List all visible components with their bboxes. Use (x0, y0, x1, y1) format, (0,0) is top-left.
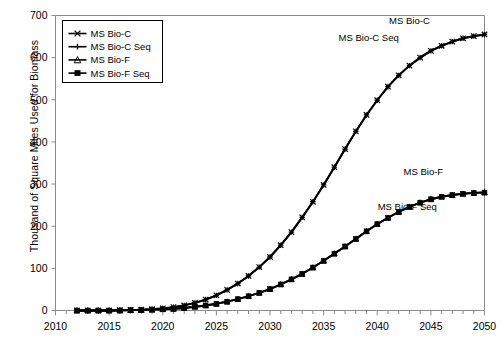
data-point-marker (257, 290, 262, 295)
x-tick-label: 2030 (258, 320, 282, 332)
data-point-marker (160, 307, 165, 312)
data-point-marker (214, 301, 219, 306)
data-point-marker (235, 297, 240, 302)
legend-label: MS Bio-F (91, 54, 131, 65)
data-point-marker (321, 258, 326, 263)
data-point-marker (375, 222, 380, 227)
legend-label: MS Bio-C (91, 28, 132, 39)
legend-label: MS Bio-F Seq (91, 68, 150, 79)
data-point-marker (343, 244, 348, 249)
data-point-marker (353, 236, 358, 241)
data-point-marker (278, 282, 283, 287)
data-point-marker (171, 306, 176, 311)
series-annotations: MS Bio-CMS Bio-C SeqMS Bio-FMS Bio-F Seq (339, 15, 444, 212)
x-tick-label: 2035 (312, 320, 336, 332)
data-point-marker (289, 277, 294, 282)
chart-container: Thousand of Square Miles Used for Biomas… (0, 0, 502, 344)
data-point-marker (96, 308, 101, 313)
data-point-marker (203, 303, 208, 308)
data-point-marker (246, 294, 251, 299)
data-point-marker (225, 299, 230, 304)
data-point-marker (150, 307, 155, 312)
annotation-label: MS Bio-C Seq (339, 32, 399, 43)
x-tick-label: 2020 (151, 320, 175, 332)
data-point-marker (193, 304, 198, 309)
x-tick-label: 2050 (473, 320, 497, 332)
data-point-marker (107, 308, 112, 313)
data-point-marker (311, 265, 316, 270)
x-tick-label: 2015 (97, 320, 121, 332)
data-point-marker (450, 193, 455, 198)
data-point-marker (117, 308, 122, 313)
data-point-marker (482, 190, 487, 195)
data-point-marker (75, 71, 80, 76)
annotation-label: MS Bio-F (404, 166, 444, 177)
x-tick-label: 2040 (366, 320, 390, 332)
data-point-marker (332, 251, 337, 256)
data-point-marker (139, 308, 144, 313)
data-point-marker (364, 229, 369, 234)
annotation-label: MS Bio-C (389, 15, 430, 26)
x-tick-labels: 201020152020202520302035204020452050 (44, 320, 497, 332)
data-point-marker (461, 191, 466, 196)
x-tick-label: 2010 (44, 320, 68, 332)
data-point-marker (300, 271, 305, 276)
data-point-marker (128, 308, 133, 313)
data-point-marker (268, 287, 273, 292)
legend-label: MS Bio-C Seq (91, 41, 151, 52)
annotation-label: MS Bio-F Seq (378, 201, 437, 212)
chart-legend: MS Bio-CMS Bio-C SeqMS Bio-FMS Bio-F Seq (63, 21, 163, 83)
x-tick-label: 2025 (205, 320, 229, 332)
line-chart-plot: 0100200300400500600700 20102015202020252… (0, 0, 502, 344)
data-point-marker (182, 306, 187, 311)
y-tick-label: 0 (42, 304, 48, 316)
data-point-marker (75, 308, 80, 313)
data-point-marker (85, 308, 90, 313)
x-tick-label: 2045 (419, 320, 443, 332)
data-point-marker (386, 215, 391, 220)
y-axis-title: Thousand of Square Miles Used for Biomas… (28, 16, 40, 276)
data-point-marker (471, 191, 476, 196)
data-point-marker (439, 194, 444, 199)
